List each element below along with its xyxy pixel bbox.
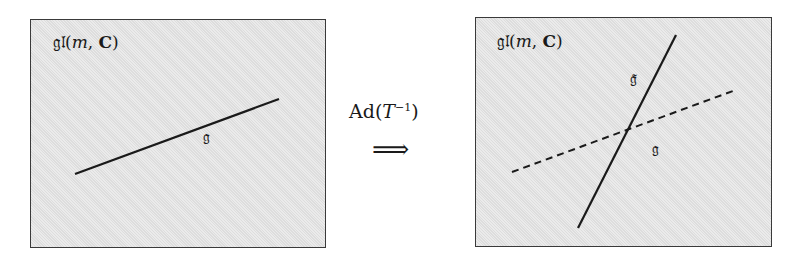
- transformed-subalgebra-line: [578, 35, 676, 228]
- ad-var-t: T: [382, 100, 395, 122]
- ad-prefix: Ad(: [349, 100, 382, 122]
- ad-exponent: −1: [395, 101, 411, 114]
- ad-close-paren: ): [411, 100, 418, 122]
- implies-arrow-icon: ⟹: [372, 136, 409, 162]
- original-subalgebra-dashed-line: [512, 91, 733, 172]
- adjoint-map-label: Ad(T−1): [349, 100, 419, 122]
- left-subalgebra-line: [75, 99, 279, 174]
